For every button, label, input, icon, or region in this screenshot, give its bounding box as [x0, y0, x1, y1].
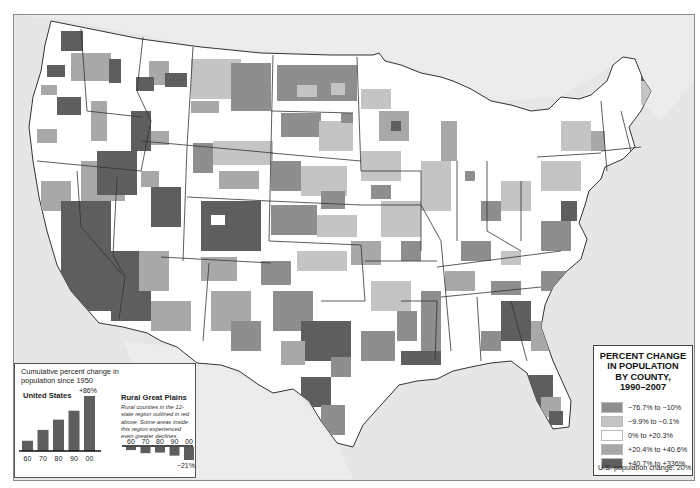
legend-footer: U.S. population change: 20%: [598, 463, 691, 472]
bar: [141, 447, 151, 453]
bar: [170, 447, 180, 456]
x-tick-label: 60: [127, 438, 135, 445]
x-tick-label: 80: [55, 455, 63, 462]
x-tick-label: 00: [86, 455, 94, 462]
rural-min-label: −21%: [177, 462, 195, 469]
x-tick-label: 70: [142, 438, 150, 445]
bar: [38, 430, 49, 451]
bar: [84, 396, 95, 451]
bar: [155, 447, 165, 453]
legend-item: +20.4% to +40.6%: [601, 444, 691, 456]
bar: [126, 447, 136, 450]
legend-label: 0% to +20.3%: [628, 431, 673, 440]
us-max-label: +86%: [79, 387, 97, 394]
legend-label: −9.9% to −0.1%: [628, 417, 679, 426]
bar: [184, 447, 194, 460]
inset-bars: 6070809000+86% 6070809000−21%: [15, 364, 197, 479]
us-bar-chart: 6070809000+86%: [19, 387, 101, 462]
bar: [22, 441, 33, 451]
legend-swatch: [601, 430, 623, 441]
legend-label: +20.4% to +40.6%: [628, 445, 687, 454]
legend-swatch: [601, 416, 623, 427]
inset-chart-box: Cumulative percent change in population …: [14, 363, 196, 478]
bar: [53, 420, 64, 451]
x-tick-label: 70: [39, 455, 47, 462]
legend-label: −76.7% to −10%: [628, 403, 681, 412]
x-tick-label: 00: [185, 438, 193, 445]
bar: [69, 411, 80, 451]
legend-swatch: [601, 402, 623, 413]
legend-box: PERCENT CHANGE IN POPULATION BY COUNTY, …: [593, 345, 693, 476]
rural-bar-chart: 6070809000−21%: [122, 438, 195, 469]
x-tick-label: 90: [70, 455, 78, 462]
legend-swatch: [601, 444, 623, 455]
legend-item: −76.7% to −10%: [601, 402, 691, 414]
x-tick-label: 90: [171, 438, 179, 445]
x-tick-label: 80: [156, 438, 164, 445]
x-tick-label: 60: [24, 455, 32, 462]
legend-item: 0% to +20.3%: [601, 430, 691, 442]
legend-title: PERCENT CHANGE IN POPULATION BY COUNTY, …: [594, 351, 692, 393]
legend-item: −9.9% to −0.1%: [601, 416, 691, 428]
